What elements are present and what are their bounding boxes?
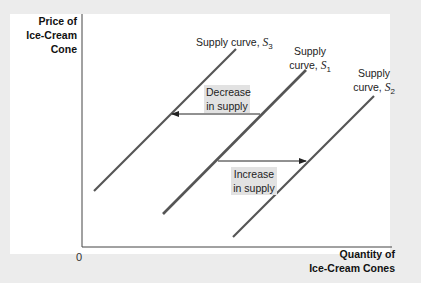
- box-line: Decrease: [206, 85, 248, 99]
- x-label-line: Quantity of: [280, 247, 395, 261]
- y-label-line: Cone: [10, 42, 77, 56]
- box-line: in supply: [233, 181, 275, 195]
- label-s1: Supply curve, S1: [282, 44, 338, 77]
- supply-curve-s3: [94, 49, 236, 191]
- label-sub: 3: [268, 42, 272, 51]
- y-axis-label: Price of Ice-Cream Cone: [10, 14, 77, 56]
- decrease-label: Decrease in supply: [204, 85, 250, 113]
- y-label-line: Ice-Cream: [10, 28, 77, 42]
- label-sub: 2: [390, 87, 394, 96]
- label-text: Supply: [346, 66, 402, 80]
- box-line: in supply: [206, 99, 248, 113]
- origin-label: 0: [76, 251, 82, 263]
- label-s2: Supply curve, S2: [346, 66, 402, 99]
- x-label-line: Ice-Cream Cones: [280, 261, 395, 275]
- label-text: curve,: [289, 59, 321, 71]
- y-label-line: Price of: [10, 14, 77, 28]
- x-axis-label: Quantity of Ice-Cream Cones: [280, 247, 395, 275]
- box-line: Increase: [233, 167, 275, 181]
- label-text: Supply: [282, 44, 338, 58]
- increase-label: Increase in supply: [231, 167, 277, 195]
- label-text: Supply curve,: [196, 36, 263, 48]
- label-s3: Supply curve, S3: [196, 35, 273, 54]
- label-text: curve,: [353, 81, 385, 93]
- label-sub: 1: [326, 65, 330, 74]
